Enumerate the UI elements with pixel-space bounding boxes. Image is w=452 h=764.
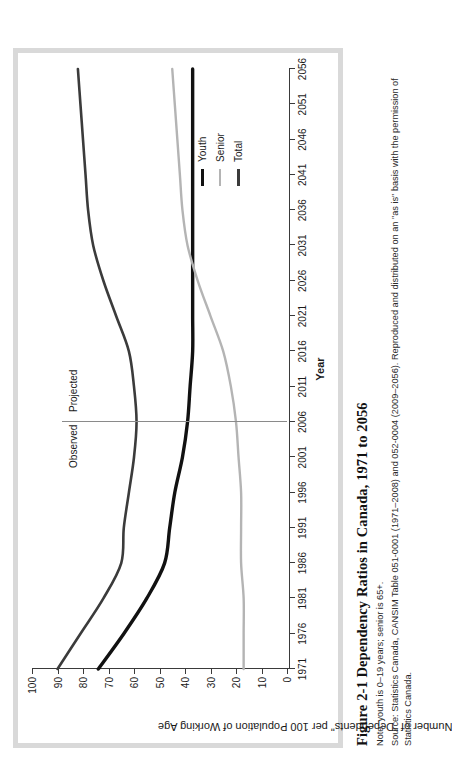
legend-swatch-icon — [201, 169, 204, 186]
x-tick — [290, 244, 295, 245]
x-axis-title: Year — [314, 357, 326, 380]
x-tick — [290, 68, 295, 69]
y-tick-label: 0 — [282, 677, 293, 703]
caption-note: Note: youth is 0–19 years; senior is 65+… — [374, 48, 386, 746]
x-tick-label: 1971 — [297, 658, 308, 680]
y-tick — [236, 669, 237, 674]
x-tick — [290, 527, 295, 528]
y-tick-label: 100 — [27, 677, 38, 703]
y-tick-label: 90 — [52, 677, 63, 703]
y-tick — [32, 669, 33, 674]
legend-label: Senior — [215, 133, 226, 162]
x-tick-label: 1981 — [297, 587, 308, 609]
y-tick — [83, 669, 84, 674]
x-tick-label: 2001 — [297, 446, 308, 468]
caption-title: Figure 2-1 Dependency Ratios in Canada, … — [354, 48, 371, 746]
x-tick-label: 1996 — [297, 481, 308, 503]
y-tick — [262, 669, 263, 674]
x-tick — [290, 562, 295, 563]
x-tick-label: 2021 — [297, 305, 308, 327]
y-tick — [134, 669, 135, 674]
y-tick-label: 20 — [231, 677, 242, 703]
x-tick — [290, 456, 295, 457]
x-tick — [290, 668, 295, 669]
figure-caption: Figure 2-1 Dependency Ratios in Canada, … — [354, 48, 414, 748]
rotated-figure-container: Number of "Dependents" per 100 Populatio… — [13, 16, 427, 748]
x-tick — [290, 209, 295, 210]
y-tick-label: 50 — [154, 677, 165, 703]
x-tick-label: 1991 — [297, 517, 308, 539]
x-tick — [290, 350, 295, 351]
y-tick — [185, 669, 186, 674]
x-tick-label: 2031 — [297, 234, 308, 256]
x-tick-label: 2046 — [297, 128, 308, 150]
figure-wrapper: Number of "Dependents" per 100 Populatio… — [13, 16, 427, 748]
x-tick — [290, 315, 295, 316]
x-tick — [290, 280, 295, 281]
legend-swatch-icon — [237, 169, 240, 186]
annotation-projected: Projected — [68, 370, 79, 412]
x-tick-label: 2036 — [297, 199, 308, 221]
x-tick-label: 2041 — [297, 164, 308, 186]
x-tick-label: 2026 — [297, 270, 308, 292]
x-tick — [290, 421, 295, 422]
y-tick-label: 40 — [180, 677, 191, 703]
x-tick — [290, 139, 295, 140]
x-tick-label: 1976 — [297, 623, 308, 645]
y-tick — [211, 669, 212, 674]
legend-label: Total — [233, 141, 244, 162]
y-tick-label: 10 — [256, 677, 267, 703]
x-tick — [290, 492, 295, 493]
x-tick — [290, 633, 295, 634]
x-tick-label: 1986 — [297, 552, 308, 574]
observed-projected-divider — [62, 421, 287, 422]
caption-source: Source: Statistics Canada, CANSIM Table … — [389, 48, 414, 746]
x-tick — [290, 386, 295, 387]
x-tick — [290, 597, 295, 598]
x-tick — [290, 103, 295, 104]
legend-item: Total — [233, 133, 244, 186]
chart-legend: YouthSeniorTotal — [197, 133, 244, 186]
annotation-observed: Observed — [68, 425, 79, 468]
x-tick-label: 2011 — [297, 376, 308, 398]
y-tick-label: 30 — [205, 677, 216, 703]
x-tick-label: 2016 — [297, 340, 308, 362]
y-tick — [287, 669, 288, 674]
x-tick-label: 2056 — [297, 58, 308, 80]
x-tick — [290, 174, 295, 175]
x-tick-label: 2051 — [297, 93, 308, 115]
chart-card: Number of "Dependents" per 100 Populatio… — [13, 48, 343, 748]
legend-swatch-icon — [219, 169, 221, 186]
x-tick-label: 2006 — [297, 411, 308, 433]
legend-label: Youth — [197, 137, 208, 162]
y-tick-label: 70 — [103, 677, 114, 703]
y-tick-label: 80 — [78, 677, 89, 703]
y-tick — [109, 669, 110, 674]
y-tick — [160, 669, 161, 674]
x-axis-line — [289, 68, 290, 669]
legend-item: Youth — [197, 133, 208, 186]
y-tick-label: 60 — [129, 677, 140, 703]
legend-item: Senior — [215, 133, 226, 186]
